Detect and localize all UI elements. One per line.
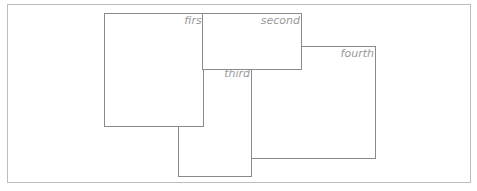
box-label-second: second bbox=[261, 15, 300, 27]
box-label-fourth: fourth bbox=[341, 48, 374, 60]
box-first: first bbox=[104, 13, 204, 127]
box-second: second bbox=[202, 13, 302, 70]
